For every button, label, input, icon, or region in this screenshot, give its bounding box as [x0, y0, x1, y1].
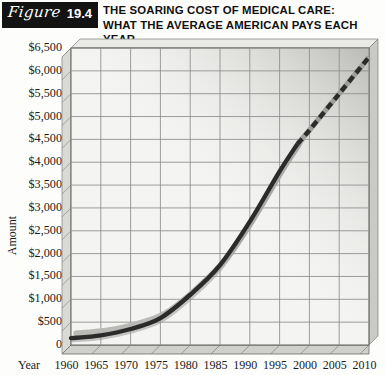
plot-left-wall	[62, 48, 71, 354]
plot-top-slab	[71, 39, 378, 48]
plot-right-slab	[369, 39, 378, 345]
chart-plot	[0, 0, 386, 375]
figure-root: Figure 19.4 THE SOARING COST OF MEDICAL …	[0, 0, 386, 375]
